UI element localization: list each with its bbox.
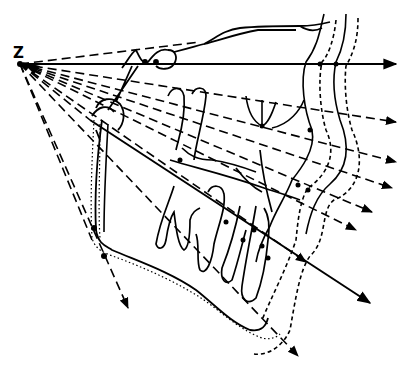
skull-outline (108, 22, 330, 110)
cephalometric-diagram (0, 0, 412, 369)
ray-1 (20, 64, 396, 122)
diagram-canvas: Z (0, 0, 412, 369)
rays (20, 42, 396, 356)
ray-8 (20, 64, 128, 308)
main-axis (90, 120, 370, 303)
orbit-outline (246, 96, 304, 128)
profile-solid-2 (306, 14, 346, 234)
teeth (156, 88, 300, 301)
ray-6 (20, 64, 306, 262)
ray-7 (20, 64, 298, 356)
ray-5 (20, 64, 356, 230)
ray-10 (20, 42, 200, 64)
profile-solid-1 (256, 14, 324, 262)
ray-9 (20, 64, 92, 240)
